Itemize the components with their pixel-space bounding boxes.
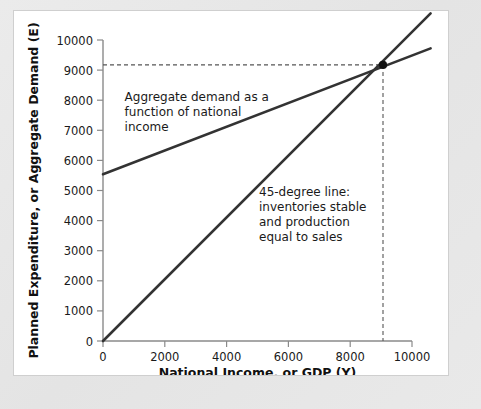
- y-tick-label-4000: 4000: [64, 214, 93, 228]
- x-tick-label-6000: 6000: [274, 350, 303, 364]
- y-tick-label-6000: 6000: [64, 154, 93, 168]
- x-axis-ticks: [103, 341, 412, 347]
- y-axis-title: Planned Expenditure, or Aggregate Demand…: [26, 22, 41, 358]
- y-tick-label-3000: 3000: [64, 244, 93, 258]
- y-axis-tick-labels: 0 1000 2000 3000 4000 5000 6000 7000 800…: [56, 34, 93, 349]
- x-tick-label-4000: 4000: [212, 350, 241, 364]
- aggregate-demand-annotation-line-2: function of national: [125, 105, 242, 119]
- y-tick-label-7000: 7000: [64, 124, 93, 138]
- aggregate-demand-annotation-line-3: income: [125, 120, 169, 134]
- y-axis-ticks: [97, 40, 103, 341]
- y-tick-label-2000: 2000: [64, 274, 93, 288]
- y-tick-label-5000: 5000: [64, 184, 93, 198]
- y-tick-label-8000: 8000: [64, 94, 93, 108]
- y-tick-label-1000: 1000: [64, 304, 93, 318]
- x-axis-title: National Income, or GDP (Y): [159, 365, 357, 375]
- chart-panel: 0 1000 2000 3000 4000 5000 6000 7000 800…: [14, 11, 448, 375]
- x-tick-label-2000: 2000: [150, 350, 179, 364]
- x-tick-label-0: 0: [99, 350, 106, 364]
- aggregate-demand-annotation-line-1: Aggregate demand as a: [125, 90, 269, 104]
- forty-five-degree-annotation-line-3: and production: [259, 215, 350, 229]
- y-tick-label-10000: 10000: [56, 34, 93, 48]
- keynesian-cross-chart: 0 1000 2000 3000 4000 5000 6000 7000 800…: [14, 11, 448, 375]
- forty-five-degree-annotation: 45-degree line: inventories stable and p…: [259, 185, 366, 244]
- x-tick-label-8000: 8000: [336, 350, 365, 364]
- forty-five-degree-annotation-line-2: inventories stable: [259, 200, 366, 214]
- forty-five-degree-annotation-line-4: equal to sales: [259, 230, 343, 244]
- aggregate-demand-annotation: Aggregate demand as a function of nation…: [125, 90, 269, 134]
- x-tick-label-10000: 10000: [394, 350, 431, 364]
- x-axis-tick-labels: 0 2000 4000 6000 8000 10000: [99, 350, 430, 364]
- forty-five-degree-annotation-line-1: 45-degree line:: [259, 185, 350, 199]
- equilibrium-point: [379, 61, 387, 69]
- y-tick-label-0: 0: [86, 335, 93, 349]
- y-tick-label-9000: 9000: [64, 64, 93, 78]
